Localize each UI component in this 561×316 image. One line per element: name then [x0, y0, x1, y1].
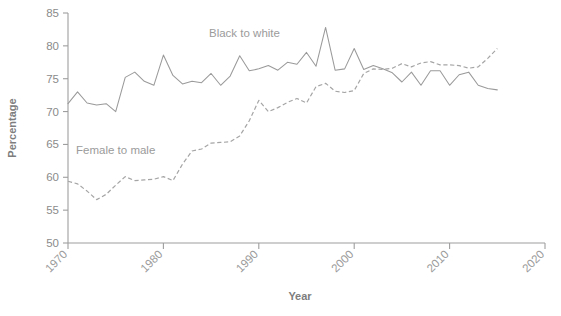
y-tick-label: 60 [46, 171, 59, 183]
chart-background [0, 0, 561, 316]
y-tick-label: 55 [46, 204, 59, 216]
line-chart: 5055606570758085 19701980199020002010202… [0, 0, 561, 316]
series-label: Female to male [76, 144, 155, 156]
y-tick-label: 75 [46, 73, 59, 85]
x-axis-title: Year [288, 290, 312, 302]
y-tick-label: 80 [46, 40, 59, 52]
y-tick-label: 85 [46, 7, 59, 19]
y-tick-label: 70 [46, 106, 59, 118]
y-axis-title: Percentage [6, 98, 18, 157]
y-tick-label: 65 [46, 138, 59, 150]
y-tick-label: 50 [46, 237, 59, 249]
chart-container: 5055606570758085 19701980199020002010202… [0, 0, 561, 316]
series-label: Black to white [209, 27, 280, 39]
